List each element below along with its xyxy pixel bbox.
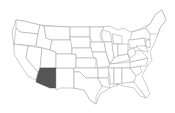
state-new-england [146, 10, 166, 34]
state-kansas [76, 58, 96, 68]
state-montana [44, 26, 70, 40]
state-arizona [36, 68, 56, 88]
us-map-svg [0, 0, 175, 113]
state-north-dakota [70, 27, 90, 37]
state-new-mexico [56, 68, 74, 90]
state-iowa [90, 42, 106, 52]
state-alabama [114, 68, 122, 84]
state-south-dakota [70, 37, 90, 48]
state-colorado [56, 54, 76, 68]
us-map [0, 0, 175, 113]
state-michigan [112, 34, 122, 44]
